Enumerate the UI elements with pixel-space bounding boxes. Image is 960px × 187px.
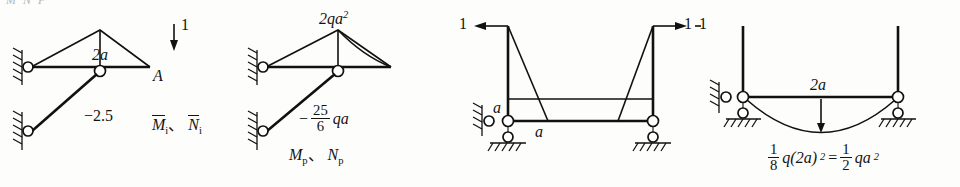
mid-ordinate-arrow (817, 99, 825, 133)
label-axial-fraction: − 25 6 qa (299, 103, 349, 134)
label-incoming-force: 1 (699, 16, 707, 32)
unit-load-frame-svg (450, 0, 695, 187)
caption-separator: 、 (168, 116, 184, 133)
label-axial-value: −2.5 (84, 108, 113, 124)
left-moment-line (508, 26, 548, 121)
right-joint-node (648, 116, 659, 127)
label-unit-force: 1 (181, 17, 189, 33)
panel-udl-frame: 1 2a 1 8 q(2a)2= 1 2 qa2 (695, 0, 960, 187)
panel-real-load-diagram: 2qa2 − 25 6 qa Mp、 Np (235, 0, 450, 187)
left-roller-support (724, 102, 761, 127)
label-moment-formula: 1 8 q(2a)2= 1 2 qa2 (768, 141, 879, 173)
caption-mi-ni: Mi、 Ni (152, 115, 202, 137)
caption-n-symbol: N (328, 146, 339, 163)
formula-equals: = (828, 150, 837, 166)
right-moment-line (618, 26, 653, 121)
panel-unit-load-frame: 1 1 a a (450, 0, 695, 187)
formula-denominator-8: 8 (768, 158, 779, 173)
unit-state-svg (0, 0, 235, 187)
unit-force-arrow (170, 24, 178, 51)
caption-separator: 、 (308, 146, 324, 163)
upper-wall-hatch (13, 48, 22, 85)
left-unit-force-arrow (474, 22, 508, 30)
lower-wall-hatch (248, 111, 257, 150)
upper-wall-hatch (248, 48, 257, 85)
caption-n-subscript: p (338, 155, 343, 166)
lower-wall-hatch (13, 111, 22, 150)
label-height-a: a (493, 100, 501, 116)
label-point-a: A (153, 68, 163, 84)
formula-q2a-exponent: 2 (820, 152, 825, 163)
label-span-2a: 2a (810, 77, 826, 93)
left-joint-node (503, 116, 514, 127)
label-left-force: 1 (459, 16, 467, 32)
axial-sign: − (299, 111, 308, 127)
formula-fraction-one-half: 1 2 (840, 142, 851, 173)
caption-m-symbol: M (152, 115, 165, 133)
right-joint-node (893, 92, 904, 103)
formula-numerator-2: 1 (840, 142, 851, 158)
caption-n-symbol: N (188, 115, 199, 133)
right-roller-support (879, 102, 916, 127)
moment-peak-exponent: 2 (343, 9, 348, 20)
upper-pin-node (23, 62, 33, 72)
label-moment-peak: 2qa2 (319, 10, 348, 27)
moment-peak-base: 2qa (319, 10, 343, 27)
lower-pin-node (258, 126, 268, 136)
formula-numerator-1: 1 (768, 142, 779, 158)
moment-triangle (268, 30, 391, 67)
label-length-a: a (535, 124, 543, 140)
figure-sheet: M N P (0, 0, 960, 187)
lower-pin-node (23, 126, 33, 136)
label-span-2a: 2a (92, 47, 108, 63)
left-wall-pin-node (721, 92, 731, 102)
left-roller-support (488, 126, 526, 151)
formula-denominator-2: 2 (840, 158, 851, 173)
upper-pin-node (258, 62, 268, 72)
left-wall-hatch (473, 103, 482, 136)
left-joint-node (738, 92, 749, 103)
caption-mp-np: Mp、 Np (289, 147, 344, 167)
axial-unit: qa (333, 111, 349, 127)
right-unit-force-arrow (653, 22, 687, 30)
panel-unit-state-diagram: 2a 1 A −2.5 Mi、 Ni (0, 0, 235, 187)
axial-numerator: 25 (311, 103, 330, 119)
formula-fraction-one-eighth: 1 8 (768, 142, 779, 173)
axial-denominator: 6 (311, 119, 330, 134)
formula-qa: qa (855, 150, 871, 166)
caption-m-symbol: M (289, 146, 302, 163)
caption-n-subscript: i (199, 125, 202, 136)
formula-qa-exponent: 2 (874, 152, 879, 163)
label-right-force: 1 (684, 16, 692, 32)
left-wall-hatch (710, 80, 719, 113)
axial-fraction: 25 6 (311, 103, 330, 134)
right-roller-support (633, 126, 671, 151)
left-wall-pin-node (484, 116, 494, 126)
formula-q2a: q(2a) (782, 150, 817, 166)
